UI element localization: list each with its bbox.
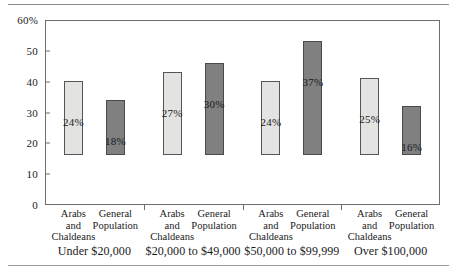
bar-value-label: 37%	[302, 76, 323, 88]
series-label-line: and	[249, 220, 293, 232]
x-axis-group-label: $50,000 to $99,999	[244, 244, 339, 259]
bar-value-label: 24%	[63, 116, 84, 128]
bar	[106, 100, 125, 156]
x-axis-series-label: GeneralPopulation	[290, 208, 336, 231]
x-axis-series-label: GeneralPopulation	[389, 208, 435, 231]
x-axis-group-separator-tick	[144, 205, 145, 210]
x-axis-series-label: GeneralPopulation	[191, 208, 237, 231]
bar-value-label: 27%	[162, 107, 183, 119]
x-axis-group-separator-tick	[341, 205, 342, 210]
x-axis-group-separator-tick	[243, 205, 244, 210]
series-label-line: Population	[93, 220, 139, 232]
series-label-line: and	[52, 220, 96, 232]
series-label-line: Population	[191, 220, 237, 232]
series-label-line: Population	[389, 220, 435, 232]
series-label-line: and	[150, 220, 194, 232]
bar	[303, 41, 322, 155]
bar-value-label: 16%	[401, 141, 422, 153]
figure-container: 60%50403020100 24%ArabsandChaldeans18%Ge…	[0, 0, 457, 276]
bar-value-label: 30%	[204, 98, 225, 110]
series-label-line: Arabs	[249, 208, 293, 220]
series-label-line: General	[191, 208, 237, 220]
x-axis-group-label: Over $100,000	[354, 244, 427, 259]
x-axis-series-label: ArabsandChaldeans	[150, 208, 194, 243]
bars-layer: 24%ArabsandChaldeans18%GeneralPopulation…	[0, 0, 457, 226]
x-axis-group-label: Under $20,000	[58, 244, 131, 259]
series-label-line: Arabs	[150, 208, 194, 220]
series-label-line: Arabs	[52, 208, 96, 220]
series-label-line: Population	[290, 220, 336, 232]
series-label-line: Chaldeans	[249, 231, 293, 243]
series-label-line: Chaldeans	[52, 231, 96, 243]
bottom-horizontal-rule	[8, 265, 449, 266]
series-label-line: General	[389, 208, 435, 220]
bar-value-label: 18%	[105, 135, 126, 147]
series-label-line: Chaldeans	[348, 231, 392, 243]
x-axis-group-label: $20,000 to $49,000	[146, 244, 241, 259]
series-label-line: Chaldeans	[150, 231, 194, 243]
x-axis-series-label: ArabsandChaldeans	[348, 208, 392, 243]
x-axis-series-label: ArabsandChaldeans	[52, 208, 96, 243]
series-label-line: General	[93, 208, 139, 220]
bar-value-label: 24%	[260, 116, 281, 128]
series-label-line: and	[348, 220, 392, 232]
series-label-line: General	[290, 208, 336, 220]
x-axis-series-label: ArabsandChaldeans	[249, 208, 293, 243]
series-label-line: Arabs	[348, 208, 392, 220]
x-axis-series-label: GeneralPopulation	[93, 208, 139, 231]
bar-value-label: 25%	[359, 113, 380, 125]
